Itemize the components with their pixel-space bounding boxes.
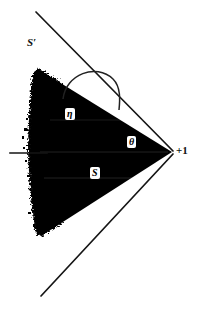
label-s: S bbox=[90, 167, 100, 179]
figure-canvas: S′ +1 η θ S bbox=[0, 0, 199, 309]
label-s-prime: S′ bbox=[27, 37, 36, 48]
label-theta: θ bbox=[127, 136, 136, 148]
label-plus-one: +1 bbox=[176, 145, 188, 156]
label-eta: η bbox=[65, 108, 75, 120]
